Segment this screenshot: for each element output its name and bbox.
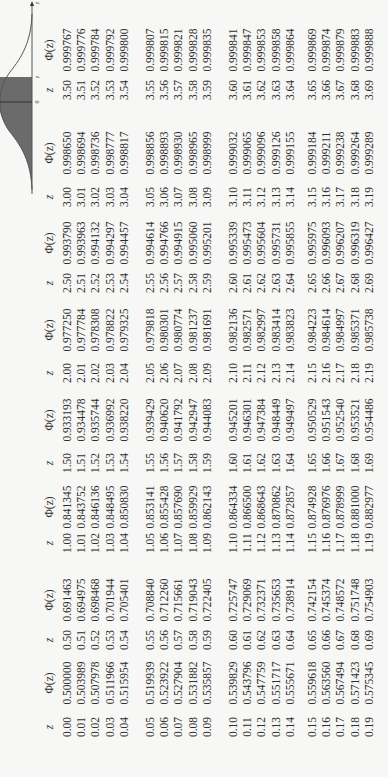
phi-value: 0.948449 — [270, 398, 282, 441]
phi-value: 0.996427 — [363, 221, 375, 264]
phi-value: 0.984997 — [334, 308, 346, 351]
phi-value: 0.551717 — [270, 661, 282, 704]
phi-value: 0.998650 — [61, 131, 73, 174]
z-value: 2.60 — [227, 273, 239, 293]
z-value: 3.05 — [144, 187, 156, 207]
normal-curve-graph: 0 z z — [0, 0, 40, 202]
phi-value: 0.985738 — [363, 308, 375, 351]
column-header-z: z — [43, 461, 55, 465]
phi-value: 0.999784 — [89, 28, 101, 71]
z-value: 0.55 — [144, 630, 156, 650]
z-value: 2.58 — [187, 273, 199, 293]
phi-value: 0.984614 — [320, 308, 332, 351]
phi-value: 0.999264 — [349, 131, 361, 174]
z-value: 1.51 — [75, 453, 87, 473]
z-value: 1.64 — [284, 453, 296, 473]
phi-value: 0.983823 — [284, 308, 296, 351]
z-value: 0.07 — [172, 717, 184, 737]
phi-value: 0.999032 — [227, 131, 239, 174]
phi-value: 0.933193 — [61, 398, 73, 441]
z-value: 2.67 — [334, 273, 346, 293]
phi-value: 0.999211 — [320, 132, 332, 175]
z-value: 1.16 — [320, 533, 332, 553]
phi-value: 0.999776 — [75, 28, 87, 71]
phi-value: 0.870862 — [270, 485, 282, 528]
phi-value: 0.944083 — [201, 398, 213, 441]
phi-value: 0.995731 — [270, 221, 282, 264]
z-value: 1.54 — [118, 453, 130, 473]
z-value: 1.15 — [306, 533, 318, 553]
z-value: 0.68 — [349, 630, 361, 650]
z-value: 3.62 — [255, 80, 267, 100]
z-value: 1.05 — [144, 533, 156, 553]
phi-value: 0.705401 — [118, 578, 130, 621]
phi-value: 0.995201 — [201, 221, 213, 264]
z-value: 3.08 — [187, 187, 199, 207]
z-value: 0.00 — [61, 717, 73, 737]
z-value: 3.04 — [118, 187, 130, 207]
phi-value: 0.999883 — [349, 28, 361, 71]
z-value: 1.00 — [61, 533, 73, 553]
phi-value: 0.559618 — [306, 661, 318, 704]
phi-value: 0.715661 — [172, 578, 184, 621]
phi-value: 0.855428 — [158, 485, 170, 528]
phi-value: 0.732371 — [255, 578, 267, 621]
z-value: 0.03 — [104, 717, 116, 737]
phi-value: 0.983414 — [270, 308, 282, 351]
axis-label-z: z — [34, 1, 40, 5]
z-value: 1.63 — [270, 453, 282, 473]
z-value: 2.09 — [201, 363, 213, 383]
phi-value: 0.951543 — [320, 398, 332, 441]
z-value: 2.03 — [104, 363, 116, 383]
phi-value: 0.999835 — [201, 28, 213, 71]
column-header-phi: Φ(z) — [43, 142, 55, 163]
z-value: 1.68 — [349, 453, 361, 473]
phi-value: 0.985371 — [349, 308, 361, 351]
phi-value: 0.994614 — [144, 221, 156, 264]
phi-value: 0.503989 — [75, 661, 87, 704]
phi-value: 0.981691 — [201, 308, 213, 351]
z-value: 3.11 — [241, 187, 253, 207]
z-value: 0.65 — [306, 630, 318, 650]
phi-value: 0.980774 — [172, 308, 184, 351]
z-value: 3.16 — [320, 187, 332, 207]
column-header-phi: Φ(z) — [43, 409, 55, 430]
phi-value: 0.996093 — [320, 221, 332, 264]
phi-value: 0.999828 — [187, 28, 199, 71]
z-value: 1.03 — [104, 533, 116, 553]
z-value: 0.08 — [187, 717, 199, 737]
z-value: 0.50 — [61, 630, 73, 650]
phi-value: 0.567494 — [334, 661, 346, 704]
phi-value: 0.531882 — [187, 661, 199, 704]
phi-value: 0.999879 — [334, 28, 346, 71]
phi-value: 0.954486 — [363, 398, 375, 441]
phi-value: 0.515954 — [118, 661, 130, 704]
column-header-phi: Φ(z) — [43, 319, 55, 340]
z-value: 1.69 — [363, 453, 375, 473]
z-value: 1.07 — [172, 533, 184, 553]
phi-value: 0.994297 — [104, 221, 116, 264]
z-value: 2.00 — [61, 363, 73, 383]
z-value: 0.04 — [118, 717, 130, 737]
phi-value: 0.946301 — [241, 398, 253, 441]
phi-value: 0.571423 — [349, 661, 361, 704]
phi-value: 0.977784 — [75, 308, 87, 351]
phi-value: 0.511966 — [104, 662, 116, 705]
z-value: 1.53 — [104, 453, 116, 473]
phi-value: 0.984223 — [306, 308, 318, 351]
z-value: 3.18 — [349, 187, 361, 207]
z-value: 0.54 — [118, 630, 130, 650]
z-value: 2.14 — [284, 363, 296, 383]
phi-value: 0.846136 — [89, 485, 101, 528]
phi-value: 0.998930 — [172, 131, 184, 174]
phi-value: 0.994132 — [89, 221, 101, 264]
column-header-z: z — [43, 371, 55, 375]
phi-value: 0.999289 — [363, 131, 375, 174]
z-value: 2.02 — [89, 363, 101, 383]
z-value: 3.59 — [201, 80, 213, 100]
phi-value: 0.981237 — [187, 308, 199, 351]
z-value: 2.12 — [255, 363, 267, 383]
phi-value: 0.994915 — [172, 221, 184, 264]
z-value: 3.68 — [349, 80, 361, 100]
phi-value: 0.938220 — [118, 398, 130, 441]
